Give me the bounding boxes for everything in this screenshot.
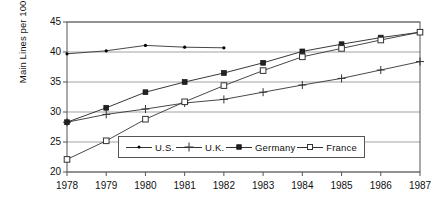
data-point-marker bbox=[183, 46, 186, 49]
data-point-marker bbox=[259, 88, 267, 96]
chart-legend: U.S.U.K.GermanyFrance bbox=[118, 136, 365, 158]
legend-marker-plus-icon bbox=[176, 141, 202, 153]
legend-label: France bbox=[323, 142, 357, 153]
data-point-marker bbox=[104, 105, 109, 110]
legend-marker-dot-icon bbox=[126, 141, 152, 153]
data-point-marker bbox=[105, 49, 108, 52]
data-point-marker bbox=[144, 44, 147, 47]
data-point-marker bbox=[221, 71, 226, 76]
data-point-marker bbox=[220, 95, 228, 103]
data-point-marker bbox=[65, 52, 68, 55]
data-point-marker bbox=[378, 37, 384, 43]
data-point-marker bbox=[65, 120, 70, 125]
data-point-marker bbox=[64, 157, 70, 163]
data-point-marker bbox=[182, 99, 188, 105]
data-point-marker bbox=[103, 138, 109, 144]
legend-label: Germany bbox=[252, 142, 295, 153]
data-point-marker bbox=[143, 90, 148, 95]
data-point-marker bbox=[182, 80, 187, 85]
legend-item-uk[interactable]: U.K. bbox=[176, 141, 224, 153]
legend-item-germany[interactable]: Germany bbox=[226, 141, 295, 153]
data-point-marker bbox=[339, 46, 345, 52]
legend-label: U.S. bbox=[152, 142, 174, 153]
data-point-marker bbox=[416, 58, 424, 66]
series-line bbox=[67, 32, 420, 122]
legend-marker-open-square-icon bbox=[297, 141, 323, 153]
chart-figure: Main Lines per 100 Population 2025303540… bbox=[0, 0, 439, 208]
data-point-marker bbox=[300, 49, 305, 54]
series-germany bbox=[65, 30, 423, 125]
data-point-marker bbox=[221, 83, 227, 89]
data-point-marker bbox=[338, 74, 346, 82]
data-point-marker bbox=[260, 68, 266, 74]
data-point-marker bbox=[143, 116, 149, 122]
plot-area bbox=[0, 0, 439, 208]
data-point-marker bbox=[377, 66, 385, 74]
series-us bbox=[65, 44, 225, 56]
data-point-marker bbox=[300, 54, 306, 60]
data-point-marker bbox=[417, 29, 423, 35]
data-point-marker bbox=[222, 46, 225, 49]
legend-item-france[interactable]: France bbox=[297, 141, 357, 153]
series-line bbox=[67, 62, 420, 123]
legend-item-us[interactable]: U.S. bbox=[126, 141, 174, 153]
legend-label: U.K. bbox=[202, 142, 224, 153]
data-point-marker bbox=[261, 60, 266, 65]
legend-marker-filled-square-icon bbox=[226, 141, 252, 153]
